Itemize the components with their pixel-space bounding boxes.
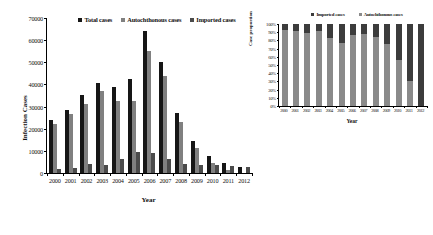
inset-bar-segment <box>293 31 299 106</box>
inset-x-tick-mark <box>427 106 428 108</box>
inset-stacked-bar <box>293 24 299 106</box>
inset-y-tick-mark <box>277 98 279 99</box>
main-x-tick-mark <box>157 173 158 176</box>
inset-bar-segment <box>304 33 310 106</box>
inset-x-tick-label: 2003 <box>312 108 323 113</box>
main-y-tick-mark <box>44 84 47 85</box>
main-x-tick-mark <box>110 173 111 176</box>
inset-bar-segment <box>361 34 367 106</box>
main-bar-group <box>110 18 126 173</box>
inset-y-tick-mark <box>277 49 279 50</box>
main-bar-group <box>157 18 173 173</box>
inset-bar-group <box>325 24 336 106</box>
main-bar <box>215 165 219 173</box>
inset-x-tick-label: 2010 <box>392 108 403 113</box>
inset-legend-label-autochthonous-cases: Autochthonous cases <box>364 12 403 17</box>
inset-legend-swatch-imported-cases <box>311 13 314 16</box>
inset-bar-segment <box>384 44 390 106</box>
figure-root: Infection Cases Total cases Autochthonou… <box>0 0 433 235</box>
inset-bar-group <box>370 24 381 106</box>
inset-bar-group <box>382 24 393 106</box>
inset-stacked-bar <box>396 24 402 106</box>
inset-stacked-bar <box>384 24 390 106</box>
main-bar <box>238 167 242 173</box>
main-x-tick-label: 2007 <box>159 177 171 184</box>
main-x-tick-mark <box>173 173 174 176</box>
inset-bar-segment <box>339 24 345 43</box>
main-bar <box>53 124 57 173</box>
main-bar <box>167 159 171 173</box>
inset-y-tick-mark <box>277 40 279 41</box>
inset-bar-segment <box>316 24 322 31</box>
main-x-tick-mark <box>142 173 143 176</box>
main-bar-group <box>126 18 142 173</box>
inset-bar-group <box>336 24 347 106</box>
inset-bar-segment <box>407 24 413 81</box>
inset-bar-segment <box>407 81 413 106</box>
main-x-tick-label: 2008 <box>175 177 187 184</box>
main-bar-chart: Infection Cases Total cases Autochthonou… <box>0 0 262 235</box>
main-x-tick-label: 2003 <box>96 177 108 184</box>
main-bar-group <box>142 18 158 173</box>
main-bar-group <box>79 18 95 173</box>
main-y-tick-mark <box>44 40 47 41</box>
main-bar <box>84 104 88 173</box>
main-x-tick-label: 2005 <box>128 177 140 184</box>
main-y-tick-mark <box>44 129 47 130</box>
main-y-tick-mark <box>44 107 47 108</box>
inset-legend: Imported cases Autochthonous cases <box>288 12 426 17</box>
inset-bar-segment <box>361 24 367 34</box>
main-x-tick-mark <box>79 173 80 176</box>
main-x-tick-label: 2004 <box>112 177 124 184</box>
inset-bar-group <box>359 24 370 106</box>
inset-stacked-bar <box>418 24 424 106</box>
inset-stacked-bar <box>350 24 356 106</box>
inset-bar-segment <box>396 24 402 60</box>
inset-bar-segment <box>304 24 310 33</box>
inset-y-tick-mark <box>277 57 279 58</box>
inset-y-tick-mark <box>277 24 279 25</box>
main-x-tick-mark <box>236 173 237 176</box>
inset-bar-segment <box>396 60 402 106</box>
main-y-axis-label: Infection Cases <box>21 95 29 141</box>
inset-bar-group <box>416 24 427 106</box>
main-bar <box>151 153 155 173</box>
inset-bar-group <box>393 24 404 106</box>
inset-y-tick-mark <box>277 81 279 82</box>
main-x-tick-label: 2006 <box>144 177 156 184</box>
inset-stacked-bar <box>373 24 379 106</box>
main-x-tick-label: 2001 <box>65 177 77 184</box>
inset-stacked-chart: Case proportion Imported cases Autochtho… <box>248 8 433 133</box>
main-y-tick-mark <box>44 151 47 152</box>
main-x-tick-mark <box>126 173 127 176</box>
inset-x-tick-label: 2001 <box>289 108 300 113</box>
inset-x-tick-label: 2006 <box>346 108 357 113</box>
inset-x-tick-label: 2002 <box>301 108 312 113</box>
inset-bar-group <box>404 24 415 106</box>
inset-legend-item-imported-cases: Imported cases <box>311 12 344 17</box>
inset-bar-group <box>290 24 301 106</box>
main-bar-group <box>220 18 236 173</box>
inset-bar-groups <box>279 24 427 106</box>
main-bar-group <box>189 18 205 173</box>
inset-bar-group <box>313 24 324 106</box>
inset-y-tick-mark <box>277 32 279 33</box>
inset-bar-segment <box>350 24 356 35</box>
main-x-tick-mark <box>252 173 253 176</box>
main-bar <box>69 114 73 173</box>
inset-bar-segment <box>384 24 390 44</box>
main-x-tick-label: 2010 <box>207 177 219 184</box>
inset-stacked-bar <box>304 24 310 106</box>
inset-legend-item-autochthonous-cases: Autochthonous cases <box>359 12 403 17</box>
main-bar <box>73 168 77 173</box>
inset-x-tick-label: 2011 <box>403 108 414 113</box>
inset-stacked-bar <box>316 24 322 106</box>
inset-plot-area: 0%10%20%30%40%50%60%70%80%90%100% <box>278 24 427 107</box>
main-x-tick-mark <box>47 173 48 176</box>
inset-y-tick-mark <box>277 90 279 91</box>
inset-bar-segment <box>316 31 322 106</box>
inset-bar-group <box>302 24 313 106</box>
main-x-tick-label: 2011 <box>223 177 234 184</box>
inset-bar-segment <box>339 43 345 106</box>
main-bar-group <box>47 18 63 173</box>
